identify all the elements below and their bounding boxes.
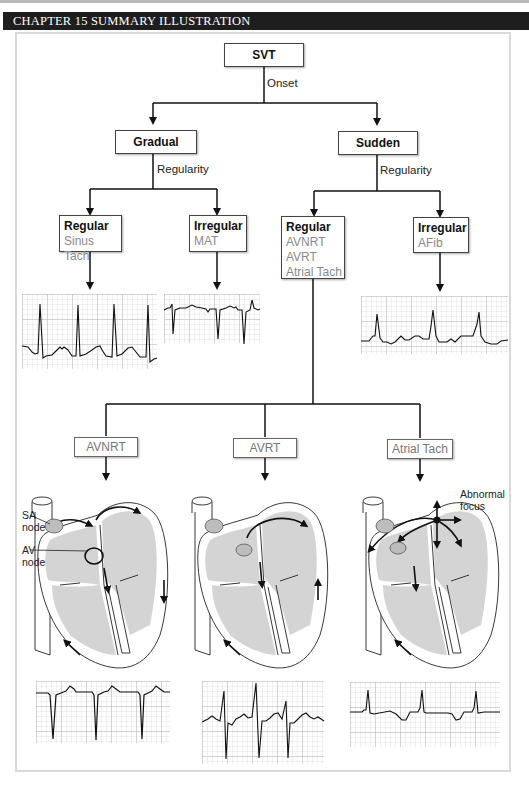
ecg-avrt	[202, 681, 324, 764]
node-title: Irregular	[418, 221, 468, 236]
node-svt: SVT	[224, 43, 304, 67]
node-sudden-regular: Regular AVNRT AVRT Atrial Tach	[281, 216, 345, 279]
node-title: Regular	[64, 219, 121, 234]
node-sudden-label: Sudden	[356, 136, 400, 151]
node-mechanism-avnrt: AVNRT	[74, 437, 138, 457]
node-item-avnrt: AVNRT	[286, 235, 344, 250]
ecg-afib	[361, 296, 508, 354]
node-title: Regular	[286, 220, 344, 235]
node-gradual-regular: Regular Sinus Tach	[59, 215, 122, 252]
node-item-atrial-tach: Atrial Tach	[286, 265, 344, 280]
mechanism-label: AVNRT	[86, 440, 126, 455]
ecg-atrial-tach	[350, 682, 500, 747]
mechanism-label: Atrial Tach	[392, 442, 448, 457]
node-mechanism-avrt: AVRT	[233, 438, 297, 458]
node-sudden: Sudden	[338, 131, 418, 155]
ecg-sinus-tach	[22, 294, 157, 369]
node-mechanism-atrial-tach: Atrial Tach	[387, 439, 453, 459]
callout-abnormal-focus: Abnormal focus	[460, 488, 505, 512]
ecg-avnrt	[36, 681, 170, 743]
node-gradual-label: Gradual	[133, 135, 178, 150]
node-item-mat: MAT	[194, 234, 246, 249]
callout-line: Abnormal	[460, 488, 505, 500]
node-svt-label: SVT	[252, 48, 275, 63]
node-title: Irregular	[194, 219, 246, 234]
node-gradual-irregular: Irregular MAT	[189, 215, 247, 252]
node-sudden-irregular: Irregular AFib	[413, 217, 469, 253]
node-item-avrt: AVRT	[286, 250, 344, 265]
callout-av-node: AV node	[22, 544, 45, 568]
edge-label-gradual-regularity: Regularity	[157, 163, 209, 175]
callout-line: AV	[22, 544, 35, 556]
callout-line: focus	[460, 500, 485, 512]
edge-label-sudden-regularity: Regularity	[380, 164, 432, 176]
edge-label-onset: Onset	[267, 77, 298, 89]
node-gradual: Gradual	[115, 130, 197, 154]
node-item-afib: AFib	[418, 236, 468, 251]
callout-line: SA	[22, 509, 36, 521]
callout-sa-node: SA node	[22, 509, 45, 533]
callout-line: node	[22, 556, 45, 568]
mechanism-label: AVRT	[250, 441, 281, 456]
ecg-mat	[164, 294, 260, 344]
node-item-sinus-tach: Sinus Tach	[64, 234, 121, 264]
callout-line: node	[22, 521, 45, 533]
flowchart-connectors	[0, 0, 529, 791]
